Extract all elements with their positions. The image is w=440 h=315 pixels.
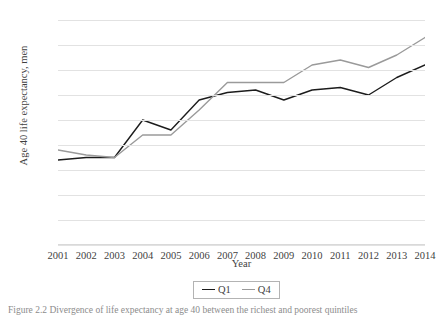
plot-area: 8382.58281.58180.58079.57978.5 200120022… xyxy=(58,20,425,245)
legend-line-icon-q1 xyxy=(202,289,215,290)
legend-label-q4: Q4 xyxy=(258,284,271,295)
gridline xyxy=(58,245,425,246)
x-axis-ticks: 2001200220032004200520062007200820092010… xyxy=(58,20,425,245)
legend-item-q1: Q1 xyxy=(202,284,231,295)
figure-caption: Figure 2.2 Divergence of life expectancy… xyxy=(8,305,432,315)
legend-label-q1: Q1 xyxy=(218,284,231,295)
legend-item-q4: Q4 xyxy=(242,284,271,295)
y-axis-title: Age 40 life expectancy, men xyxy=(18,21,29,191)
figure-container: Age 40 life expectancy, men 8382.58281.5… xyxy=(0,0,440,315)
line-chart: Age 40 life expectancy, men 8382.58281.5… xyxy=(0,0,440,276)
chart-legend: Q1 Q4 xyxy=(193,281,280,299)
x-axis-title: Year xyxy=(58,258,425,269)
legend-line-icon-q4 xyxy=(242,289,255,290)
